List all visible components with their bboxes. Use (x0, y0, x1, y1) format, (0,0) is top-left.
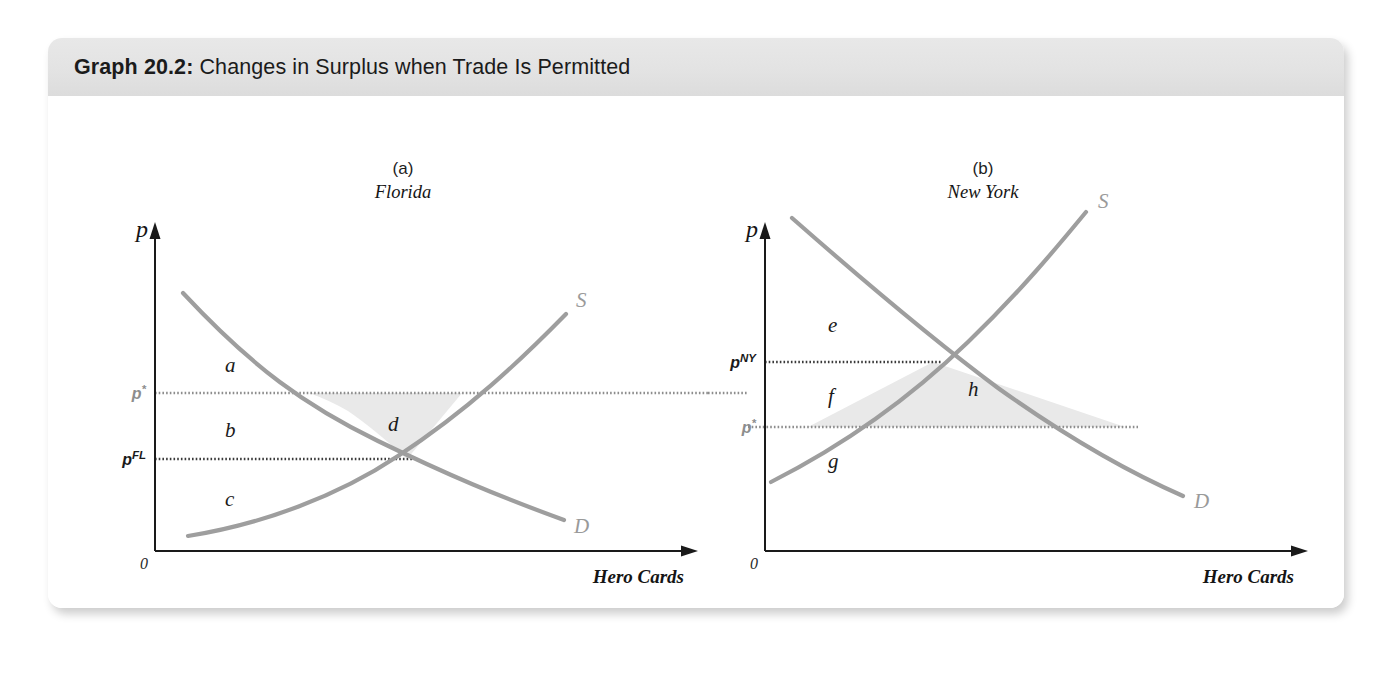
y-axis-arrow-florida (150, 222, 161, 239)
panel-b-caption-paren: (b) (973, 159, 994, 178)
panel-florida: (a) Florida S D p (121, 159, 708, 587)
origin-label-florida: 0 (140, 555, 148, 572)
panel-a-caption-name: Florida (374, 182, 432, 202)
panel-a-caption-paren: (a) (393, 159, 414, 178)
region-label-f: f (828, 384, 837, 408)
price-label-p-fl: pFL (121, 449, 146, 468)
region-label-e: e (828, 313, 837, 337)
x-axis-label-new-york: Hero Cards (1202, 566, 1294, 587)
y-axis-arrow-new-york (760, 222, 771, 239)
region-label-b: b (225, 418, 236, 442)
curve-label-demand-new-york: D (1193, 489, 1209, 513)
figure-title: Graph 20.2: Changes in Surplus when Trad… (74, 55, 630, 80)
y-axis-label-florida: p (134, 216, 148, 242)
price-label-p-star-florida-sup: * (142, 383, 147, 395)
curve-demand-new-york (792, 218, 1183, 496)
region-h-shading (808, 362, 1125, 427)
panel-new-york: (b) New York S D p (729, 159, 1308, 587)
region-label-d: d (388, 412, 399, 436)
curve-supply-new-york (771, 212, 1086, 482)
region-label-c: c (225, 487, 235, 511)
region-label-a: a (225, 353, 236, 377)
price-label-p-star-new-york-base: p (741, 419, 752, 436)
figure-header: Graph 20.2: Changes in Surplus when Trad… (48, 38, 1344, 96)
graph-svg: (a) Florida S D p (48, 96, 1344, 608)
figure-number: Graph 20.2: (74, 55, 193, 79)
price-label-p-star-new-york-sup: * (752, 417, 757, 429)
curve-label-demand-florida: D (573, 514, 589, 538)
price-label-p-fl-base: p (121, 451, 132, 468)
x-axis-arrow-florida (681, 546, 698, 557)
region-label-h: h (968, 377, 979, 401)
region-label-g: g (828, 449, 839, 473)
price-label-p-ny: pNY (729, 352, 757, 371)
price-label-p-star-florida: p* (131, 383, 147, 402)
price-label-p-fl-sup: FL (132, 449, 146, 461)
plot-surface: (a) Florida S D p (48, 96, 1344, 608)
curve-label-supply-florida: S (576, 288, 587, 312)
y-axis-label-new-york: p (744, 216, 758, 242)
price-label-p-star-new-york: p* (741, 417, 757, 436)
panel-b-caption-name: New York (947, 182, 1020, 202)
figure-title-text: Changes in Surplus when Trade Is Permitt… (199, 55, 630, 79)
x-axis-label-florida: Hero Cards (592, 566, 684, 587)
price-label-p-ny-base: p (729, 354, 740, 371)
origin-label-new-york: 0 (750, 555, 758, 572)
x-axis-arrow-new-york (1291, 546, 1308, 557)
curve-label-supply-new-york: S (1098, 189, 1109, 213)
price-label-p-ny-sup: NY (740, 352, 757, 364)
price-label-p-star-florida-base: p (131, 385, 142, 402)
figure-container: Graph 20.2: Changes in Surplus when Trad… (48, 38, 1344, 608)
